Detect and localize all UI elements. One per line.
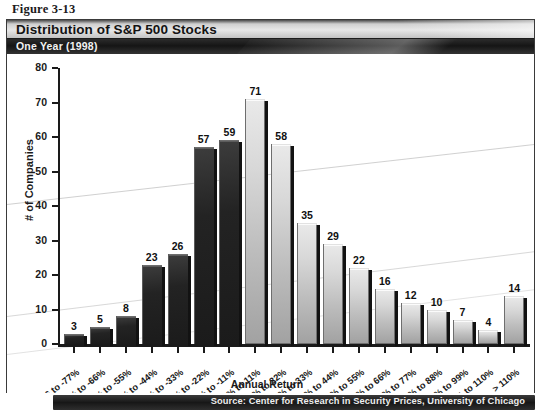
y-tick [52,274,58,276]
bar-face [116,316,136,344]
subbanner-gloss [196,39,534,54]
y-tick [52,136,58,138]
bar-face [90,327,110,344]
x-tick [177,347,179,353]
bar [64,334,84,344]
x-tick [99,347,101,353]
x-tick [462,347,464,353]
bar-cap [350,268,369,270]
bar-value-label: 16 [365,275,405,287]
y-tick [52,240,58,242]
x-tick [513,347,515,353]
bar-side [110,329,113,346]
x-tick [358,347,360,353]
bar [271,144,291,344]
bar-cap [298,223,317,225]
bar-side [188,256,191,346]
bar-cap [246,99,265,101]
bar-value-label: 8 [106,302,146,314]
bar-cap [65,334,84,336]
bar-value-label: 4 [468,316,508,328]
y-axis-title: # of Companies [23,120,35,240]
x-axis-title: Annual Return [167,378,367,390]
bar [90,327,110,344]
bar-cap [324,244,343,246]
bar-side [317,225,320,346]
bar-cap [220,140,239,142]
y-tick-label: 10 [21,303,47,315]
bar [116,316,136,344]
chart-title-banner: Distribution of S&P 500 Stocks [7,20,534,39]
bar-value-label: 23 [132,251,172,263]
bar-value-label: 71 [235,85,275,97]
bar-face [142,265,162,344]
bar-cap [117,316,136,318]
chart-title: Distribution of S&P 500 Stocks [16,22,217,37]
y-tick [52,67,58,69]
bar-face [168,254,188,344]
y-tick [52,309,58,311]
bar-side [84,336,87,346]
figure-caption: Figure 3-13 [12,2,75,17]
source-bar: Source: Center for Research in Security … [53,395,535,410]
x-tick [332,347,334,353]
bar-value-label: 22 [339,254,379,266]
y-tick [52,205,58,207]
bar-face [219,140,239,344]
bar-cap [195,147,214,149]
bar-face [271,144,291,344]
bar-face [401,303,421,344]
x-tick [73,347,75,353]
y-tick [52,102,58,104]
bar [401,303,421,344]
bar-side [162,267,165,346]
bar-cap [169,254,188,256]
chart-subtitle-banner: One Year (1998) [7,39,534,54]
y-tick-label: 80 [21,61,47,73]
y-tick-label: 70 [21,96,47,108]
bar-value-label: 5 [80,313,120,325]
bar-value-label: 29 [313,230,353,242]
figure-page: Figure 3-13 Distribution of S&P 500 Stoc… [0,0,541,414]
x-tick [254,347,256,353]
source-text: Source: Center for Research in Security … [211,396,525,406]
bar-face [478,330,498,344]
bar-face [194,147,214,344]
bar-cap [91,327,110,329]
x-tick [151,347,153,353]
x-tick [228,347,230,353]
x-tick-label: -66 to -77% [7,367,81,393]
bar-value-label: 35 [287,209,327,221]
bar-cap [479,330,498,332]
y-tick [52,171,58,173]
bar [478,330,498,344]
x-tick [203,347,205,353]
bar-face [504,296,524,344]
plot-area: 01020304050607080 # of Companies 3582326… [7,54,534,393]
x-tick [280,347,282,353]
bar-side [291,146,294,346]
bar-side [421,305,424,346]
bar-side [214,149,217,346]
bar [142,265,162,344]
x-tick [384,347,386,353]
bar [504,296,524,344]
banner-gloss [382,20,534,39]
bar [219,140,239,344]
bar [168,254,188,344]
bar-value-label: 14 [494,282,534,294]
bar-side [524,298,527,346]
bar-cap [272,144,291,146]
x-tick [410,347,412,353]
bar-side [498,332,501,346]
x-tick [306,347,308,353]
y-axis-line [58,68,60,346]
y-tick-label: 0 [21,337,47,349]
bar-cap [505,296,524,298]
x-tick [436,347,438,353]
chart-subtitle: One Year (1998) [16,40,98,52]
bar-cap [143,265,162,267]
bar [194,147,214,344]
y-tick [52,343,58,345]
x-tick [487,347,489,353]
